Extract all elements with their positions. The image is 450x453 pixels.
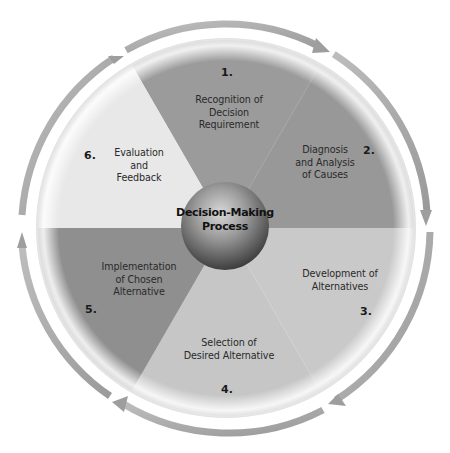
step-4-line2: Desired Alternative [176, 350, 282, 363]
step-6-label: Evaluation and Feedback [104, 147, 174, 185]
step-4-line1: Selection of [176, 337, 282, 350]
step-2-line2: and Analysis [290, 157, 360, 170]
step-6-line2: and [104, 160, 174, 173]
step-3-number: 3. [360, 305, 372, 318]
step-1-number: 1. [221, 66, 233, 79]
step-2-label: Diagnosis and Analysis of Causes [290, 144, 360, 182]
step-3-line1: Development of [284, 268, 396, 281]
step-3-label: Development of Alternatives [284, 268, 396, 293]
step-2-number: 2. [363, 144, 375, 157]
step-2-line1: Diagnosis [290, 144, 360, 157]
step-6-line1: Evaluation [104, 147, 174, 160]
step-1-line1: Recognition of [176, 94, 282, 107]
arrow-head-1 [312, 38, 330, 53]
step-1-line3: Requirement [176, 119, 282, 132]
center-label-line2: Process [170, 220, 280, 234]
step-5-label: Implementation of Chosen Alternative [88, 261, 190, 299]
center-label: Decision-Making Process [170, 206, 280, 234]
arrow-head-5 [17, 232, 27, 248]
step-5-line2: of Chosen [88, 274, 190, 287]
step-4-label: Selection of Desired Alternative [176, 337, 282, 362]
step-6-number: 6. [84, 149, 96, 162]
step-5-number: 5. [85, 303, 97, 316]
step-6-line3: Feedback [104, 172, 174, 185]
step-4-number: 4. [221, 383, 233, 396]
arrow-head-4 [112, 396, 128, 412]
step-3-line2: Alternatives [284, 281, 396, 294]
step-5-line1: Implementation [88, 261, 190, 274]
step-1-label: Recognition of Decision Requirement [176, 94, 282, 132]
step-2-line3: of Causes [290, 169, 360, 182]
center-label-line1: Decision-Making [170, 206, 280, 220]
step-1-line2: Decision [176, 107, 282, 120]
step-5-line3: Alternative [88, 286, 190, 299]
arrow-head-2 [420, 210, 432, 226]
